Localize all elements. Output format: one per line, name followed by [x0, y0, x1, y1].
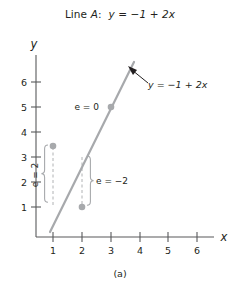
y-tick-label-5: 5 [21, 102, 27, 113]
x-tick-label-1: 1 [50, 245, 56, 256]
line-equation-label: y = −1 + 2x [147, 79, 208, 90]
x-tick-label-2: 2 [79, 245, 85, 256]
residual-brace-left [41, 145, 48, 202]
x-tick-label-6: 6 [194, 245, 200, 256]
line-equation-text: y = −1 + 2x [147, 79, 208, 90]
residual-brace-right [87, 156, 94, 205]
residual-label-e-zero: e = 0 [74, 102, 99, 112]
regression-line [50, 62, 134, 232]
y-tick-label-3: 3 [21, 152, 27, 163]
x-tick-label-4: 4 [137, 245, 143, 256]
x-axis-label: x [220, 230, 228, 244]
data-point-1-3[interactable] [50, 143, 57, 150]
x-axis-tick-labels: 1 2 3 4 5 6 [50, 245, 200, 256]
plot-area: 1 2 3 4 5 6 1 2 3 4 5 6 y x [0, 0, 240, 265]
y-axis-tick-labels: 1 2 3 4 5 6 [21, 77, 27, 213]
x-tick-label-3: 3 [108, 245, 114, 256]
data-point-2-1[interactable] [79, 204, 86, 211]
y-tick-label-1: 1 [21, 202, 27, 213]
data-point-3-5[interactable] [108, 104, 115, 111]
residual-label-e-negative: e = −2 [96, 176, 128, 186]
residual-label-e-positive: e = 2 [30, 163, 40, 188]
figure-panel: Line A: y = −1 + 2x 1 2 3 [0, 0, 240, 295]
y-tick-label-4: 4 [21, 127, 27, 138]
y-tick-label-2: 2 [21, 177, 27, 188]
x-tick-label-5: 5 [165, 245, 171, 256]
figure-caption: (a) [0, 268, 240, 279]
y-axis-label: y [30, 37, 38, 51]
y-tick-label-6: 6 [21, 77, 27, 88]
